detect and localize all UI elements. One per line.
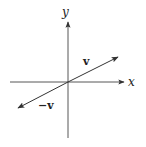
y-axis-label: y	[61, 5, 69, 19]
vector-v-label: v	[82, 55, 90, 68]
vector-v-arrow	[68, 57, 118, 82]
vector-neg-v-label: −v	[38, 99, 54, 112]
vector-diagram: y x v −v	[0, 0, 146, 147]
x-axis-label: x	[128, 75, 135, 89]
